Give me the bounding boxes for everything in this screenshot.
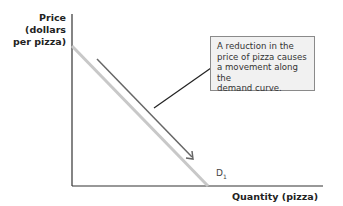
callout-line-2: price of pizza causes [217,52,308,63]
chart-plot [0,0,343,206]
demand-curve-label: D1 [216,168,227,180]
demand-label-subscript: 1 [223,173,227,180]
demand-label-main: D [216,168,223,178]
callout-line-3: a movement along the [217,62,308,83]
callout-box: A reduction in the price of pizza causes… [210,36,315,91]
movement-arrow [97,59,192,157]
callout-leader-line [154,68,211,108]
callout-line-1: A reduction in the [217,41,308,52]
callout-line-4: demand curve. [217,83,308,94]
demand-curve [72,46,208,186]
x-axis-label: Quantity (pizza) [232,191,318,202]
